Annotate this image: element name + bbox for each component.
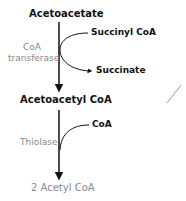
enzyme-line2: transferase (8, 53, 56, 64)
label-succinate: Succinate (96, 66, 146, 75)
cofactor-curve-step2 (60, 125, 89, 150)
enzyme-thiolase: Thiolase (20, 137, 57, 148)
cofactor-curve-step1 (60, 33, 90, 71)
enzyme-line1: CoA (8, 42, 56, 53)
node-acetoacetate: Acetoacetate (29, 9, 104, 19)
stray-mark (167, 85, 181, 103)
enzyme-coa-transferase: CoA transferase (8, 42, 56, 64)
node-2-acetyl-coa: 2 Acetyl CoA (31, 183, 95, 193)
label-coa: CoA (92, 120, 112, 129)
label-succinyl-coa: Succinyl CoA (91, 28, 156, 37)
node-acetoacetyl-coa: Acetoacetyl CoA (20, 95, 112, 105)
